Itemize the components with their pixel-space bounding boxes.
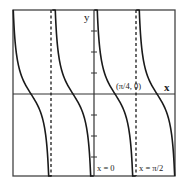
cotangent-graph: y x (π/4, 0) x = 0 x = π/2 xyxy=(0,0,183,180)
cotangent-branch xyxy=(52,10,93,176)
point-label: (π/4, 0) xyxy=(116,81,141,91)
cotangent-branch xyxy=(136,10,174,176)
asymptote-label-zero: x = 0 xyxy=(97,163,115,173)
asymptote-label-half-pi: x = π/2 xyxy=(139,163,163,173)
x-axis-label: x xyxy=(164,81,170,93)
y-axis-label: y xyxy=(84,11,90,23)
cotangent-branch xyxy=(13,10,52,176)
cotangent-branch xyxy=(94,10,135,176)
